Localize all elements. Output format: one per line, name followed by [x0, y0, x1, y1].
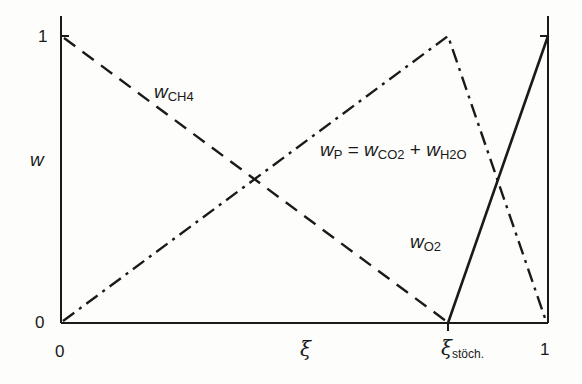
- x-axis-label: ξ: [300, 339, 311, 359]
- series-wp: [63, 36, 546, 321]
- label-wp: wP = wCO2 + wH2O: [320, 140, 467, 161]
- label-wo2-main: w: [410, 231, 424, 252]
- chart-canvas: [0, 0, 582, 384]
- stoich-subscript: stöch.: [452, 347, 484, 361]
- label-wch4: wCH4: [154, 82, 194, 103]
- x-tick-label-0: 0: [55, 343, 64, 360]
- y-tick-label-0: 0: [35, 314, 44, 331]
- x-tick-label-stoich: ξstöch.: [441, 338, 484, 360]
- label-wh2o-w: w: [426, 139, 440, 160]
- label-wo2: wO2: [410, 232, 441, 253]
- label-wp-eq: =: [342, 139, 364, 160]
- label-wco2-sub: CO2: [378, 147, 405, 162]
- y-axis-label: w: [30, 150, 44, 169]
- x-tick-label-1: 1: [540, 341, 549, 358]
- label-wo2-sub: O2: [424, 239, 441, 254]
- label-wh2o-sub: H2O: [440, 147, 467, 162]
- label-wp-w: w: [320, 139, 334, 160]
- label-wp-plus: +: [405, 139, 427, 160]
- label-wch4-sub: CH4: [168, 89, 194, 104]
- label-wco2-w: w: [364, 139, 378, 160]
- xi-symbol: ξ: [441, 336, 452, 360]
- label-wch4-main: w: [154, 81, 168, 102]
- y-tick-label-1: 1: [38, 28, 47, 45]
